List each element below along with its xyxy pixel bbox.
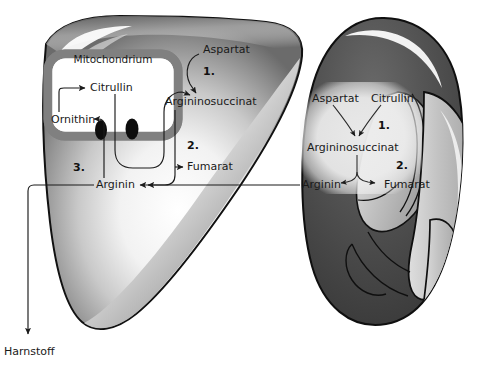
liver-step-2: 2. — [187, 139, 199, 152]
mitochondrion-label: Mitochondrium — [74, 53, 153, 65]
kidney-label-citrullin: Citrullin — [371, 92, 414, 105]
liver-step-1: 1. — [203, 65, 215, 78]
kidney-label-fumarat: Fumarat — [384, 178, 430, 191]
urea-cycle-diagram: Mitochondrium Citrullin Ornithin Asparta… — [0, 0, 498, 366]
liver-label-arginin: Arginin — [96, 178, 135, 191]
kidney-organ: Aspartat Citrullin Argininosuccinat Argi… — [300, 18, 475, 341]
kidney-label-argininosuccinat: Argininosuccinat — [307, 141, 399, 154]
diagram-canvas: Mitochondrium Citrullin Ornithin Asparta… — [0, 0, 498, 366]
kidney-step-2: 2. — [396, 159, 408, 172]
liver-label-ornithin: Ornithin — [51, 113, 95, 126]
liver-label-fumarat: Fumarat — [187, 160, 233, 173]
kidney-step-1: 1. — [378, 119, 390, 132]
kidney-label-arginin: Arginin — [302, 178, 341, 191]
harnstoff-label: Harnstoff — [4, 345, 55, 358]
citrullin-transporter-icon — [126, 119, 139, 140]
liver-step-3: 3. — [73, 161, 85, 174]
liver-label-citrullin: Citrullin — [90, 81, 133, 94]
kidney-label-aspartat: Aspartat — [312, 92, 360, 105]
liver-label-aspartat: Aspartat — [203, 43, 251, 56]
liver-label-argininosuccinat: Argininosuccinat — [165, 95, 257, 108]
mitochondrion: Mitochondrium — [48, 53, 178, 140]
ornithin-transporter-icon — [95, 120, 107, 140]
liver-organ: Mitochondrium Citrullin Ornithin Asparta… — [4, 16, 302, 358]
